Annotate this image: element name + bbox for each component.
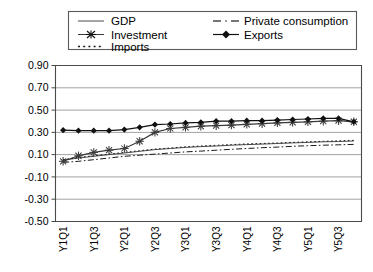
data-point-marker bbox=[105, 146, 114, 154]
y-axis-tick-label: 0.30 bbox=[28, 126, 49, 138]
x-axis-tick-label: Y3Q1 bbox=[180, 226, 191, 252]
legend-label-imports: Imports bbox=[111, 41, 150, 53]
x-axis-tick-label: Y2Q3 bbox=[150, 226, 161, 252]
x-axis-tick-label: Y1Q1 bbox=[58, 226, 69, 252]
x-axis-tick-label: Y4Q1 bbox=[242, 226, 253, 252]
chart-container: 0.900.700.500.300.10-0.10-0.30-0.50 Y1Q1… bbox=[0, 0, 373, 272]
y-axis-tick-label: -0.30 bbox=[25, 193, 49, 205]
data-point-marker bbox=[136, 137, 144, 145]
x-axis-tick-label: Y3Q3 bbox=[211, 226, 222, 252]
y-axis-tick-label: -0.50 bbox=[25, 215, 49, 227]
legend-label-exports: Exports bbox=[244, 29, 283, 41]
data-point-marker bbox=[120, 144, 128, 152]
x-axis-tick-label: Y4Q3 bbox=[272, 226, 283, 252]
data-point-marker bbox=[151, 128, 159, 136]
legend-marker-star-icon bbox=[86, 30, 96, 38]
y-axis-tick-label: 0.70 bbox=[28, 81, 49, 93]
x-axis-tick-label: Y1Q3 bbox=[89, 226, 100, 252]
economic-indicators-line-chart: 0.900.700.500.300.10-0.10-0.30-0.50 Y1Q1… bbox=[0, 0, 373, 272]
y-axis-tick-label: 0.10 bbox=[28, 148, 49, 160]
y-axis-tick-label: 0.50 bbox=[28, 104, 49, 116]
legend-label-investment: Investment bbox=[111, 29, 168, 41]
data-point-marker bbox=[74, 152, 82, 160]
y-axis-tick-label: -0.10 bbox=[25, 171, 49, 183]
x-axis-tick-label: Y5Q3 bbox=[333, 226, 344, 252]
y-axis-tick-label: 0.90 bbox=[28, 59, 49, 71]
data-point-marker bbox=[59, 157, 67, 165]
x-axis-tick-label: Y5Q1 bbox=[303, 226, 314, 252]
chart-legend: GDP Private consumption Investment bbox=[69, 12, 357, 53]
x-axis-tick-label: Y2Q1 bbox=[119, 226, 130, 252]
legend-label-gdp: GDP bbox=[111, 15, 136, 27]
legend-swatch-private-consumption-dot bbox=[225, 20, 227, 22]
legend-label-private-consumption: Private consumption bbox=[244, 15, 348, 27]
